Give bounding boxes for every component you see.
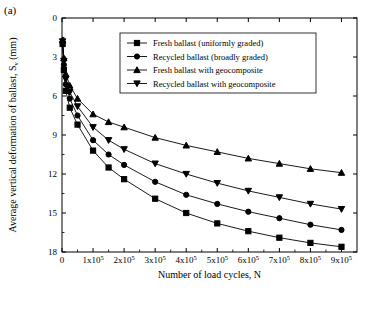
series-marker-1 [67, 96, 72, 101]
series-marker-1 [184, 192, 189, 197]
series-marker-3 [121, 147, 127, 153]
y-tick-label: 18 [48, 247, 58, 257]
series-marker-1 [106, 152, 111, 157]
y-tick-label: 3 [53, 52, 58, 62]
series-marker-3 [105, 138, 111, 144]
x-axis-title: Number of load cycles, N [158, 269, 261, 280]
legend-label-1: Recycled ballast (broadly graded) [153, 52, 268, 62]
series-marker-0 [308, 240, 313, 245]
series-marker-0 [246, 229, 251, 234]
series-marker-0 [339, 244, 344, 249]
x-tick-label: 2x105 [113, 254, 134, 265]
series-marker-1 [308, 222, 313, 227]
series-marker-1 [122, 162, 127, 167]
series-marker-1 [246, 209, 251, 214]
y-tick-label: 12 [48, 169, 57, 179]
series-marker-0 [277, 235, 282, 240]
y-axis-title: Average vertical deformation of ballast,… [7, 38, 19, 233]
legend-label-0: Fresh ballast (uniformly graded) [153, 38, 263, 48]
series-marker-3 [338, 207, 344, 213]
legend-marker-1 [134, 54, 139, 59]
series-marker-0 [106, 165, 111, 170]
chart-figure: (a) 01x1052x1053x1054x1055x1056x1057x105… [0, 0, 370, 314]
x-tick-label: 5x105 [207, 254, 228, 265]
series-marker-0 [75, 122, 80, 127]
x-tick-label: 3x105 [145, 254, 166, 265]
x-tick-label: 9x105 [331, 254, 352, 265]
y-tick-label: 6 [53, 91, 58, 101]
series-marker-1 [339, 227, 344, 232]
series-marker-1 [75, 113, 80, 118]
series-marker-0 [184, 210, 189, 215]
legend-marker-0 [134, 40, 139, 45]
series-marker-1 [90, 138, 95, 143]
series-marker-1 [215, 201, 220, 206]
series-marker-0 [67, 105, 72, 110]
series-marker-2 [105, 119, 111, 125]
y-tick-label: 0 [53, 13, 58, 23]
series-marker-1 [153, 179, 158, 184]
series-marker-2 [74, 95, 80, 101]
y-tick-label: 9 [53, 130, 58, 140]
y-tick-label: 15 [48, 208, 58, 218]
x-tick-label: 6x105 [238, 254, 259, 265]
x-tick-label: 1x105 [82, 254, 103, 265]
x-tick-label: 0 [60, 255, 65, 265]
series-marker-0 [122, 177, 127, 182]
series-marker-1 [277, 216, 282, 221]
legend-label-3: Recycled ballast with geocomposite [153, 79, 276, 89]
x-tick-label: 4x105 [176, 254, 197, 265]
x-tick-label: 8x105 [300, 254, 321, 265]
series-marker-0 [215, 221, 220, 226]
series-marker-0 [90, 148, 95, 153]
chart-canvas: 01x1052x1053x1054x1055x1056x1057x1058x10… [0, 0, 370, 314]
x-tick-label: 7x105 [269, 254, 290, 265]
legend-label-2: Fresh ballast with geocomposite [153, 65, 263, 75]
series-marker-0 [153, 196, 158, 201]
